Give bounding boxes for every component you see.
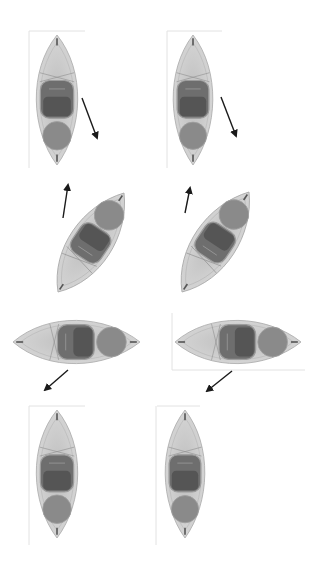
kayak-1 <box>36 35 77 165</box>
stern-hatch <box>171 496 198 523</box>
direction-arrow-5 <box>45 370 68 390</box>
seat <box>172 471 198 490</box>
kayak-4 <box>164 180 267 304</box>
direction-arrow-3 <box>63 185 68 218</box>
kayak-3 <box>40 181 142 304</box>
direction-arrow-1 <box>82 98 97 138</box>
kayak-diagram <box>0 0 319 575</box>
kayak-6 <box>175 320 301 363</box>
direction-arrow-6 <box>207 371 232 391</box>
seat <box>235 328 254 357</box>
stern-hatch <box>43 495 72 524</box>
kayak-8 <box>165 410 205 538</box>
seat <box>180 97 206 117</box>
direction-arrow-4 <box>185 188 190 213</box>
stern-hatch <box>258 327 288 357</box>
seat <box>73 328 92 357</box>
seat <box>43 471 71 490</box>
stern-hatch <box>179 122 206 149</box>
kayak-5 <box>13 320 140 363</box>
kayak-panels <box>13 35 301 538</box>
seat <box>43 97 71 117</box>
stern-hatch <box>43 121 72 150</box>
kayak-2 <box>173 35 213 165</box>
stern-hatch <box>97 327 127 357</box>
direction-arrow-2 <box>221 97 236 136</box>
kayak-7 <box>36 410 77 538</box>
